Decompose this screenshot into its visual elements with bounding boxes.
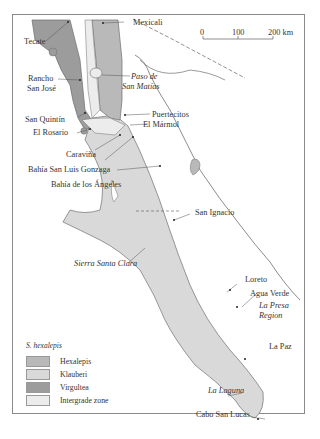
label-la-laguna: La Laguna [208,387,244,395]
border-line [133,19,245,78]
label-paso-de: Paso de [131,73,158,81]
label-el-marmol: El Mármol [143,121,179,129]
label-cataviña: Caraviña [66,151,96,159]
legend-item-virgultea: Virgultea [26,381,109,393]
label-cabo-san-lucas: Cabo San Lucas [196,411,250,419]
label-agua-verde: Agua Verde [250,290,289,298]
legend: S. hexalepis Hexalepis Klauberi Virgulte… [26,341,109,407]
swatch-hexalepis [26,356,50,367]
swatch-intergrade [26,395,50,406]
legend-label: Virgultea [60,383,89,392]
island [190,159,200,175]
label-bahia-de-los-angeles: Bahía de los Ángeles [51,181,121,189]
label-puertecitos: Puertecitos [152,111,189,119]
legend-item-hexalepis: Hexalepis [26,355,109,367]
label-el-rosario: El Rosario [33,129,68,137]
label-san-jose: San José [27,85,56,93]
legend-item-intergrade: Intergrade zone [26,394,109,406]
label-rancho: Rancho [28,75,53,83]
label-loreto: Loreto [245,276,267,284]
label-bahia-san-luis-gonzaga: Bahía San Luis Gonzaga [28,166,110,174]
legend-label: Intergrade zone [60,396,109,405]
caption-illegible [45,431,275,437]
label-mexicali: Mexicali [133,19,163,27]
scale-tick-200: 200 km [268,29,293,37]
label-la-paz: La Paz [269,343,292,351]
swatch-klauberi [26,369,50,380]
label-la-presa: La Presa [259,302,289,310]
label-san-matias: San Matías [122,83,160,91]
legend-item-klauberi: Klauberi [26,368,109,380]
swatch-virgultea [26,382,50,393]
label-region: Region [259,312,283,320]
label-san-ignacio: San Ignacio [195,209,234,217]
scale-tick-0: 0 [200,29,204,37]
label-sierra-santa-clara: Sierra Santa Clara [74,260,137,268]
legend-label: Hexalepis [60,357,91,366]
legend-label: Klauberi [60,370,87,379]
label-san-quintin: San Quintín [25,116,65,124]
legend-title: S. hexalepis [26,341,109,350]
label-tecate: Tecate [24,38,46,46]
scale-tick-100: 100 [232,29,244,37]
